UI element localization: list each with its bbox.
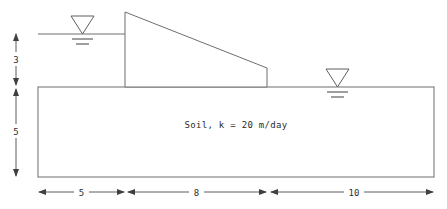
dimension-label-3: 3 [13, 55, 18, 65]
dimension-label-10: 10 [349, 188, 360, 198]
dimension-soil-thickness: 5 [9, 88, 23, 177]
seepage-diagram: 3 5 5 8 [0, 0, 447, 209]
water-table-upstream-icon [71, 16, 94, 44]
dimension-dam-base: 8 [127, 185, 267, 199]
dimension-label-5-vertical: 5 [13, 127, 18, 137]
diagram-canvas: 3 5 5 8 [0, 0, 447, 209]
dimension-downstream-length: 10 [270, 185, 434, 199]
dam-body [125, 12, 267, 87]
dimension-upstream-head: 3 [9, 33, 23, 86]
dimension-label-8: 8 [194, 188, 199, 198]
soil-block [38, 87, 434, 177]
dimension-upstream-length: 5 [38, 185, 125, 199]
dimension-label-5-horizontal: 5 [79, 188, 84, 198]
soil-label: Soil, k = 20 m/day [185, 120, 288, 130]
